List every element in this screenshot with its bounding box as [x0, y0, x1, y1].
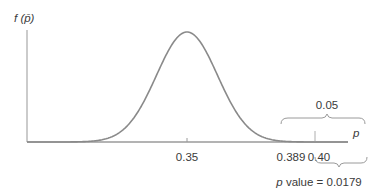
y-axis-label: f (p̄) [14, 12, 35, 24]
tick-label-mean: 0.35 [176, 151, 198, 163]
upper-brace [281, 114, 365, 124]
x-axis-label: p [352, 127, 360, 139]
lower-brace-label: p value = 0.0179 [275, 176, 361, 188]
tick-label-observed: 0.40 [308, 151, 330, 163]
sampling-distribution-diagram: f (p̄) p 0.35 0.389 0.40 0.05 p value = … [0, 0, 386, 195]
normal-curve [27, 32, 348, 142]
tick-label-critical: 0.389 [277, 151, 306, 163]
upper-brace-label: 0.05 [316, 99, 338, 111]
